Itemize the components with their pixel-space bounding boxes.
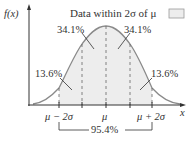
tick-label-mu-plus-2sigma: μ + 2σ xyxy=(137,112,165,123)
label-34-1-right: 34.1% xyxy=(124,25,151,36)
tick-label-mu: μ xyxy=(102,112,107,123)
label-13-6-left: 13.6% xyxy=(35,69,62,80)
tick-label-mu-minus-2sigma: μ − 2σ xyxy=(45,112,73,123)
y-axis-arrow-icon xyxy=(27,4,31,10)
legend-label: Data within 2σ of μ xyxy=(70,8,156,19)
shaded-region xyxy=(59,26,152,105)
label-13-6-right: 13.6% xyxy=(151,69,178,80)
legend-swatch xyxy=(169,9,184,18)
y-axis-label: f(x) xyxy=(4,9,19,20)
label-34-1-left: 34.1% xyxy=(57,25,84,36)
bracket-label: 95.4% xyxy=(91,125,118,136)
x-axis-label: x xyxy=(180,108,185,119)
